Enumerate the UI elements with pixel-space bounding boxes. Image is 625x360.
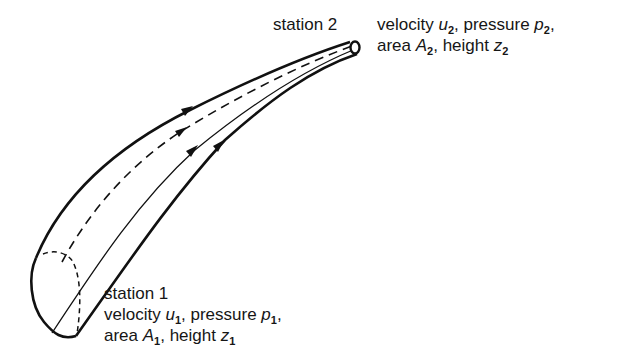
arrow-front-icon — [186, 145, 198, 157]
station1-line2: area A1, height z1 — [104, 326, 235, 347]
station1-line1: velocity u1, pressure p1, — [104, 305, 282, 326]
arrow-dashed-icon — [175, 127, 187, 137]
dashed-streamline — [62, 46, 352, 262]
station1-hidden-section — [43, 252, 80, 334]
station2-line2: area A2, height z2 — [377, 36, 508, 57]
station2-line1: velocity u2, pressure p2, — [377, 15, 555, 36]
station2-label: station 2 — [273, 15, 337, 35]
station2-end-cap — [351, 42, 360, 54]
station1-end-cap — [31, 258, 76, 337]
station1-label: station 1 — [104, 284, 168, 304]
front-streamline — [52, 50, 353, 333]
stream-tube-diagram — [0, 0, 625, 360]
